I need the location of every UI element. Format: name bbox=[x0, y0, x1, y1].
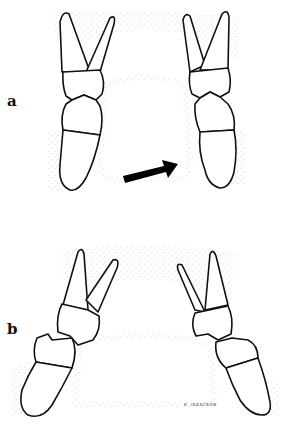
panel-a: a bbox=[0, 0, 290, 210]
panel-b: b K. ISAACSON bbox=[0, 210, 290, 425]
dental-arch-illustration-a bbox=[0, 0, 290, 210]
panel-label-a: a bbox=[7, 92, 17, 110]
panel-label-b: b bbox=[7, 320, 18, 338]
artist-signature: K. ISAACSON bbox=[184, 402, 217, 407]
dental-arch-illustration-b bbox=[0, 210, 290, 425]
